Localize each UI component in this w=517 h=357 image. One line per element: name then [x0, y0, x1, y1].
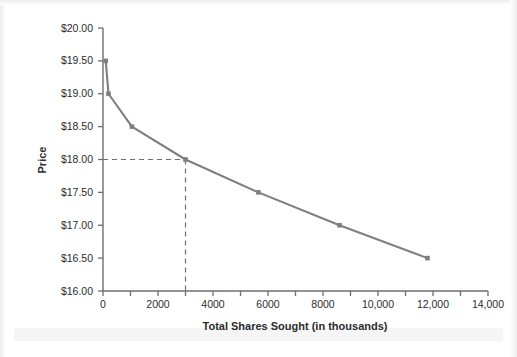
data-point-marker [337, 223, 342, 228]
y-tick-label: $19.50 [61, 54, 93, 66]
x-tick-label: 12,000 [417, 298, 449, 310]
x-tick-label: 2000 [146, 298, 170, 310]
x-tick-label: 10,000 [362, 298, 394, 310]
x-axis-title: Total Shares Sought (in thousands) [203, 320, 388, 332]
chart-svg: $16.00$16.50$17.00$17.50$18.00$18.50$19.… [0, 0, 517, 357]
x-tick-label: 0 [100, 298, 106, 310]
data-point-marker [256, 190, 261, 195]
data-line [106, 61, 428, 258]
x-axis-tick-labels: 0200040006000800010,00012,00014,000 [100, 298, 504, 310]
y-tick-label: $19.00 [61, 87, 93, 99]
data-point-marker [103, 59, 108, 64]
scanned-page: $16.00$16.50$17.00$17.50$18.00$18.50$19.… [0, 0, 517, 357]
x-tick-label: 6000 [256, 298, 280, 310]
guide-lines [103, 160, 186, 292]
y-tick-label: $16.00 [61, 285, 93, 297]
y-tick-label: $17.00 [61, 219, 93, 231]
x-tick-label: 14,000 [472, 298, 504, 310]
data-point-marker [130, 124, 135, 129]
y-tick-label: $18.50 [61, 120, 93, 132]
y-tick-label: $17.50 [61, 186, 93, 198]
x-tick-label: 8000 [311, 298, 335, 310]
data-point-marker [106, 91, 111, 96]
data-point-marker [183, 157, 188, 162]
data-point-marker [425, 256, 430, 261]
y-tick-label: $20.00 [61, 22, 93, 34]
y-tick-label: $16.50 [61, 252, 93, 264]
x-tick-label: 4000 [201, 298, 225, 310]
y-axis-tick-labels: $16.00$16.50$17.00$17.50$18.00$18.50$19.… [61, 22, 93, 297]
y-axis-title: Price [36, 147, 48, 174]
demand-curve-chart: $16.00$16.50$17.00$17.50$18.00$18.50$19.… [0, 0, 517, 357]
y-tick-label: $18.00 [61, 153, 93, 165]
x-axis-ticks [103, 291, 488, 296]
y-axis-ticks [98, 28, 103, 291]
series-line [106, 61, 428, 258]
